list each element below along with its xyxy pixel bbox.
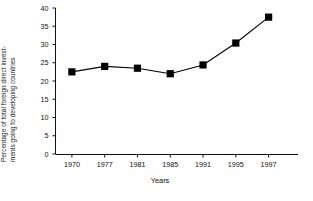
y-tick-label: 5	[33, 131, 49, 140]
y-tick-label: 30	[33, 40, 49, 49]
y-tick-label: 0	[33, 150, 49, 159]
y-tick-label: 40	[33, 4, 49, 13]
data-point-marker	[167, 70, 174, 77]
data-point-marker	[232, 39, 239, 46]
y-tick-label: 35	[33, 22, 49, 31]
y-tick-label: 15	[33, 95, 49, 104]
data-point-marker	[101, 63, 108, 70]
data-point-marker	[134, 65, 141, 72]
chart-figure: Percentage of total foreign direct inves…	[0, 0, 313, 201]
x-axis-label: Years	[130, 176, 190, 185]
y-tick-label: 25	[33, 58, 49, 67]
data-point-marker	[68, 68, 75, 75]
data-point-marker	[265, 14, 272, 21]
x-tick-label: 1997	[249, 160, 289, 169]
axis-lines	[56, 8, 299, 155]
y-tick-label: 10	[33, 113, 49, 122]
y-tick-label: 20	[33, 77, 49, 86]
data-point-marker	[199, 61, 206, 68]
